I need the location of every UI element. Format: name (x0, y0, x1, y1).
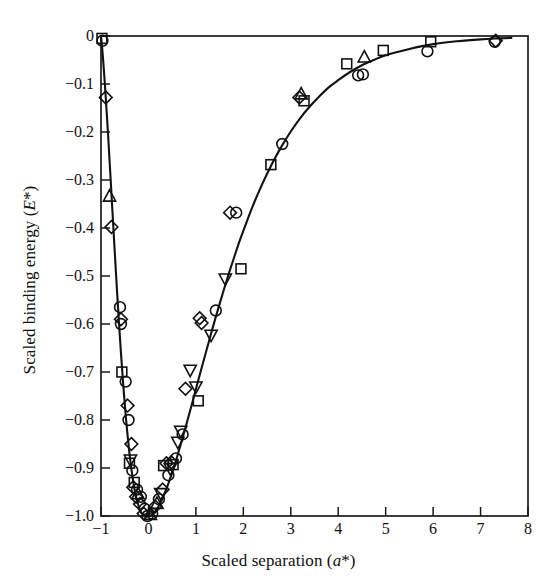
figure-universal-binding-energy-curve: 0−0.1−0.2−0.3−0.4−0.5−0.6−0.7−0.8−0.9−1.… (0, 0, 557, 584)
x-tick-label: 5 (382, 520, 390, 538)
square-marker (236, 264, 246, 274)
square-markers (97, 33, 436, 487)
square-marker (193, 396, 203, 406)
y-tick-label: −0.4 (65, 219, 94, 237)
y-tick-label: −0.3 (65, 171, 94, 189)
circle-marker (123, 415, 134, 426)
circle-marker (422, 46, 433, 57)
square-marker (426, 37, 436, 47)
y-tick-label: 0 (86, 27, 94, 45)
x-axis-title-symbol: a (333, 551, 342, 570)
circle-marker (120, 376, 131, 387)
x-tick-label: 2 (239, 520, 247, 538)
data-point-markers (97, 33, 502, 521)
triangle-up-markers (103, 51, 370, 520)
y-tick-label: −0.9 (65, 459, 94, 477)
circle-markers (97, 35, 500, 521)
axis-ticks (101, 36, 528, 516)
x-tick-label: 8 (524, 520, 532, 538)
curve-path (101, 36, 511, 516)
circle-marker (210, 305, 221, 316)
y-tick-label: −1.0 (65, 507, 94, 525)
plot-frame (101, 36, 528, 516)
x-tick-label: 6 (429, 520, 437, 538)
circle-marker (115, 302, 126, 313)
x-tick-label: −1 (92, 520, 109, 538)
diamond-marker (121, 399, 134, 412)
square-marker (97, 33, 107, 43)
x-tick-label: 7 (477, 520, 485, 538)
square-marker (378, 45, 388, 55)
x-axis-title-plain: Scaled separation ( (201, 551, 332, 570)
y-tick-label: −0.6 (65, 315, 94, 333)
square-marker (117, 367, 127, 377)
x-tick-label: 1 (192, 520, 200, 538)
x-tick-label: 4 (334, 520, 342, 538)
binding-energy-curve (101, 36, 511, 516)
x-axis-title: Scaled separation (a*) (0, 551, 557, 571)
diamond-markers (99, 34, 502, 520)
y-axis-tick-labels: 0−0.1−0.2−0.3−0.4−0.5−0.6−0.7−0.8−0.9−1.… (0, 0, 94, 584)
triangle-down-marker (184, 365, 196, 376)
square-marker (342, 59, 352, 69)
x-tick-label: 0 (144, 520, 152, 538)
triangle-up-marker (358, 51, 370, 62)
circle-marker (357, 69, 368, 80)
y-tick-label: −0.2 (65, 123, 94, 141)
y-tick-label: −0.1 (65, 75, 94, 93)
triangle-up-marker (103, 190, 115, 201)
triangle-down-marker (219, 274, 231, 285)
x-tick-label: 3 (287, 520, 295, 538)
diamond-marker (179, 382, 192, 395)
diamond-marker (105, 221, 118, 234)
triangle-down-marker (205, 330, 217, 341)
diamond-marker (125, 438, 138, 451)
y-tick-label: −0.5 (65, 267, 94, 285)
x-axis-title-tail: *) (341, 551, 355, 570)
y-tick-label: −0.7 (65, 363, 94, 381)
square-marker (266, 160, 276, 170)
circle-marker (277, 139, 288, 150)
y-tick-label: −0.8 (65, 411, 94, 429)
